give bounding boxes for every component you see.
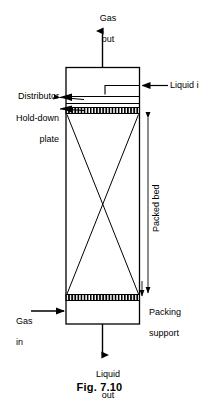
gas-out-label-line1: Gas <box>100 13 117 23</box>
hold-down-plate-label-line1: Hold-down <box>16 113 59 123</box>
packing-support-label: Packing support <box>139 296 181 349</box>
hold-down-plate-label: Hold-down plate <box>0 102 59 155</box>
liquid-out-label-line1: Liquid <box>96 369 120 379</box>
gas-in-label-line1: Gas <box>16 316 33 326</box>
packed-bed-label: Packed bed <box>151 184 161 232</box>
packing-support-plate <box>66 295 140 301</box>
gas-out-label: Gas out <box>80 2 126 55</box>
liquid-in-label: Liquid in <box>170 80 199 91</box>
hold-down-plate-label-line2: plate <box>39 134 59 144</box>
gas-in-label-line2: in <box>16 337 23 347</box>
gas-in-label: Gas in <box>6 305 33 358</box>
packed-column-figure: Gas out Liquid in Distributor Hold-down … <box>0 0 199 398</box>
distributor-label: Distributor <box>0 91 59 102</box>
column-shell <box>66 68 140 325</box>
packing-support-label-line2: support <box>149 328 179 338</box>
packing-support-label-line1: Packing <box>149 307 181 317</box>
gas-out-label-line2: out <box>102 34 115 44</box>
figure-caption: Fig. 7.10 <box>0 381 199 393</box>
